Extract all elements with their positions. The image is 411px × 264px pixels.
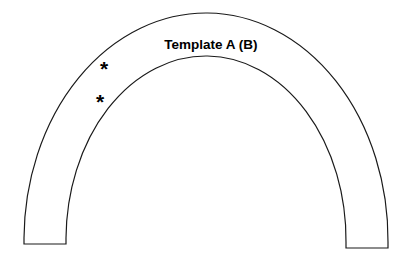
arch-template-figure: Template A (B) * * [0, 0, 411, 264]
template-label: Template A (B) [164, 37, 257, 52]
asterisk-marker-2: * [96, 90, 105, 113]
asterisk-marker-1: * [100, 57, 109, 80]
